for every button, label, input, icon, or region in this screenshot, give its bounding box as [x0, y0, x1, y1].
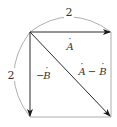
left-dimension-label: 2: [8, 69, 15, 82]
vector-diff-op: −: [88, 66, 96, 77]
top-dimension-label: 2: [66, 6, 73, 19]
vector-neg-b-label: B: [42, 70, 50, 81]
vector-a-label: A: [65, 41, 73, 52]
vector-diff-a-label: A: [77, 66, 85, 77]
top-dimension-arc: [30, 17, 111, 32]
left-dimension-arc: [14, 32, 30, 117]
vector-diff-b-label: B: [98, 66, 106, 77]
vector-subtraction-diagram: 2 2 · A − · B · A − · B: [0, 0, 117, 127]
